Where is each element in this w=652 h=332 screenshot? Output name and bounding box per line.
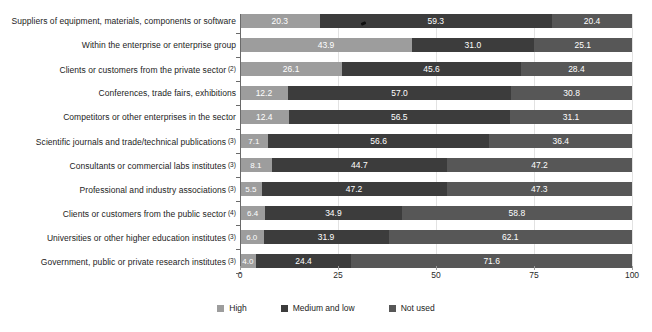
bar-segment-not-used: 25.1 <box>534 38 632 52</box>
y-axis-tick <box>236 249 241 250</box>
x-axis-tick-label: 0 <box>238 270 243 280</box>
bar-value-label: 44.7 <box>351 160 368 170</box>
bar-value-label: 47.3 <box>531 184 548 194</box>
bar-value-label: 30.8 <box>563 88 580 98</box>
bar-row: 20.359.320.4 <box>240 14 632 38</box>
stacked-bar: 7.156.636.4 <box>240 134 632 148</box>
y-axis-line <box>240 14 241 267</box>
y-axis-tick <box>236 105 241 106</box>
bar-segment-high: 7.1 <box>240 134 268 148</box>
bar-value-label: 12.2 <box>256 88 273 98</box>
bar-segment-high: 43.9 <box>240 38 412 52</box>
legend-swatch-icon <box>389 305 396 312</box>
bar-segment-high: 5.5 <box>240 182 262 196</box>
x-axis-tick-label: 100 <box>625 270 639 280</box>
bar-segment-high: 6.4 <box>240 206 265 220</box>
legend-swatch-icon <box>281 305 288 312</box>
bar-row: 7.156.636.4 <box>240 134 632 158</box>
chart-legend: HighMedium and lowNot used <box>0 303 652 313</box>
bar-segment-medium-and-low: 45.6 <box>342 62 521 76</box>
bar-row: 5.547.247.3 <box>240 182 632 206</box>
bar-value-label: 43.9 <box>318 40 335 50</box>
bar-segment-not-used: 36.4 <box>489 134 632 148</box>
category-label: Consultants or commercial labs institute… <box>70 158 236 172</box>
bar-row: 26.145.628.4 <box>240 62 632 86</box>
category-label-row: Within the enterprise or enterprise grou… <box>0 38 236 62</box>
legend-swatch-icon <box>217 305 224 312</box>
stacked-bar: 5.547.247.3 <box>240 182 632 196</box>
footnote-marker: (2) <box>226 65 236 72</box>
bar-segment-medium-and-low: 44.7 <box>272 158 447 172</box>
bar-value-label: 28.4 <box>568 64 585 74</box>
bar-value-label: 4.0 <box>242 257 253 266</box>
legend-item[interactable]: High <box>217 303 246 313</box>
bar-row: 6.434.958.8 <box>240 206 632 230</box>
stacked-bar: 6.031.962.1 <box>240 230 632 244</box>
bar-value-label: 71.6 <box>483 256 500 266</box>
stacked-bar: 20.359.320.4 <box>240 14 632 28</box>
legend-label: Medium and low <box>293 303 355 313</box>
bar-value-label: 7.1 <box>248 137 259 146</box>
bar-value-label: 26.1 <box>283 64 300 74</box>
y-axis-tick <box>236 153 241 154</box>
bar-segment-not-used: 31.1 <box>510 110 632 124</box>
bar-value-label: 45.6 <box>423 64 440 74</box>
stacked-bar: 6.434.958.8 <box>240 206 632 220</box>
stacked-bar: 43.931.025.1 <box>240 38 632 52</box>
stacked-bar: 12.257.030.8 <box>240 86 632 100</box>
bar-segment-not-used: 30.8 <box>511 86 632 100</box>
bar-segment-high: 12.2 <box>240 86 288 100</box>
bar-value-label: 5.5 <box>245 185 256 194</box>
bar-value-label: 58.8 <box>509 208 526 218</box>
bar-row: 12.257.030.8 <box>240 86 632 110</box>
bar-segment-high: 8.1 <box>240 158 272 172</box>
x-axis-tick-label: 75 <box>529 270 538 280</box>
category-label: Scientific journals and trade/technical … <box>36 134 236 148</box>
bar-value-label: 6.4 <box>247 209 258 218</box>
category-label-row: Universities or other higher education i… <box>0 230 236 254</box>
bar-value-label: 47.2 <box>531 160 548 170</box>
bar-segment-not-used: 20.4 <box>552 14 632 28</box>
footnote-marker: (4) <box>226 209 236 216</box>
bar-value-label: 6.0 <box>246 233 257 242</box>
category-label: Clients or customers from the private se… <box>59 62 236 76</box>
bar-value-label: 31.1 <box>563 112 580 122</box>
gridline <box>632 14 633 266</box>
bar-segment-high: 26.1 <box>240 62 342 76</box>
legend-item[interactable]: Medium and low <box>281 303 355 313</box>
category-label-row: Government, public or private research i… <box>0 254 236 278</box>
footnote-marker: (3) <box>226 257 236 264</box>
category-label-row: Suppliers of equipment, materials, compo… <box>0 14 236 38</box>
category-label-row: Competitors or other enterprises in the … <box>0 110 236 134</box>
footnote-marker: (3) <box>226 185 236 192</box>
legend-item[interactable]: Not used <box>389 303 435 313</box>
bar-segment-not-used: 47.3 <box>447 182 632 196</box>
stacked-bar: 26.145.628.4 <box>240 62 632 76</box>
y-axis-tick <box>236 273 241 274</box>
stacked-bar: 12.456.531.1 <box>240 110 632 124</box>
y-axis-tick <box>236 225 241 226</box>
bar-segment-medium-and-low: 47.2 <box>262 182 447 196</box>
bar-value-label: 20.4 <box>584 16 601 26</box>
stacked-bar-chart: Suppliers of equipment, materials, compo… <box>0 0 652 332</box>
bar-segment-medium-and-low: 31.0 <box>412 38 534 52</box>
bar-value-label: 20.3 <box>272 16 289 26</box>
category-label-row: Conferences, trade fairs, exhibitions <box>0 86 236 110</box>
bar-segment-medium-and-low: 56.5 <box>289 110 510 124</box>
category-label: Conferences, trade fairs, exhibitions <box>99 86 236 100</box>
bar-segment-not-used: 47.2 <box>447 158 632 172</box>
bar-segment-high: 6.0 <box>240 230 264 244</box>
bar-value-label: 56.5 <box>391 112 408 122</box>
category-label: Professional and industry associations (… <box>80 182 236 196</box>
bar-value-label: 59.3 <box>428 16 445 26</box>
bar-value-label: 34.9 <box>325 208 342 218</box>
bar-value-label: 8.1 <box>250 161 261 170</box>
y-axis-tick <box>236 33 241 34</box>
bar-value-label: 36.4 <box>552 136 569 146</box>
category-label: Government, public or private research i… <box>41 254 236 268</box>
bar-segment-medium-and-low: 31.9 <box>264 230 389 244</box>
category-label-row: Clients or customers from the public sec… <box>0 206 236 230</box>
bar-value-label: 47.2 <box>346 184 363 194</box>
bar-segment-not-used: 71.6 <box>351 254 632 268</box>
bar-segment-medium-and-low: 34.9 <box>265 206 402 220</box>
